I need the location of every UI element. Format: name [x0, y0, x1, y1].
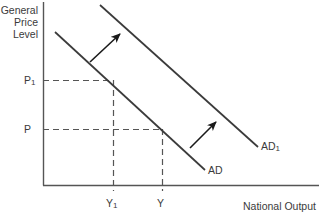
diagram-canvas: [0, 0, 319, 219]
tick-label-price-high-subscript: 1: [31, 78, 35, 87]
curve-label-ad: AD: [208, 164, 223, 176]
tick-label-price-low: P: [24, 123, 31, 135]
y-axis-title: General Price Level: [0, 4, 38, 40]
shift-arrow-upper: [90, 34, 120, 62]
shift-arrows: [90, 34, 216, 148]
curve-label-ad1: AD1: [261, 140, 280, 154]
tick-label-output-low: Y1: [106, 197, 117, 211]
axis-lines: [43, 2, 319, 186]
y-axis-title-line-1: General: [0, 4, 38, 16]
ad-curve: [55, 32, 205, 170]
shift-arrow-lower: [190, 122, 216, 148]
y-axis-title-line-2: Price: [0, 16, 38, 28]
demand-curves: [55, 5, 258, 170]
tick-label-price-high-text: P: [24, 74, 31, 86]
ad-shift-diagram: General Price Level National Output P1 P…: [0, 0, 319, 219]
tick-label-price-high: P1: [24, 74, 35, 88]
tick-label-output-low-text: Y: [106, 197, 113, 209]
guide-lines: [43, 80, 163, 191]
y-axis-title-line-3: Level: [0, 28, 38, 40]
ad1-curve: [100, 5, 258, 147]
tick-label-output-high: Y: [157, 197, 164, 209]
curve-label-ad1-text: AD: [261, 140, 276, 152]
curve-label-ad1-subscript: 1: [276, 144, 280, 153]
x-axis-title: National Output: [243, 200, 316, 212]
tick-label-output-low-subscript: 1: [113, 201, 117, 210]
